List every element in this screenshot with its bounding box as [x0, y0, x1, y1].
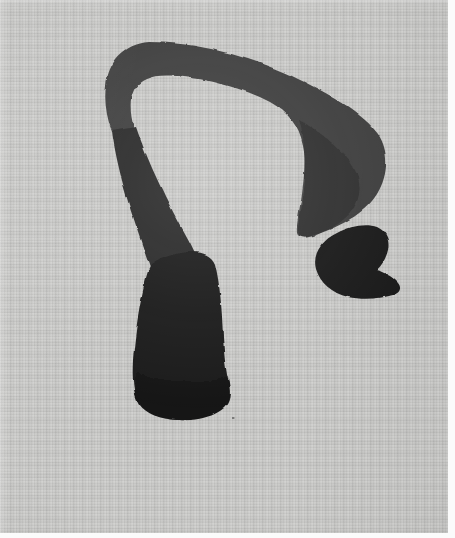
artwork-frame — [0, 0, 455, 538]
photo-margin-bottom — [0, 533, 455, 538]
ink-drawing-svg — [0, 0, 448, 533]
paper-sheet — [0, 0, 448, 533]
ink-drawing-layer — [0, 0, 448, 533]
detached-ink-group — [315, 225, 400, 299]
detached-comma-blob — [315, 225, 400, 299]
photo-margin-right — [448, 0, 455, 538]
ink-speck — [232, 417, 234, 419]
descending-stem-stroke — [112, 127, 196, 268]
